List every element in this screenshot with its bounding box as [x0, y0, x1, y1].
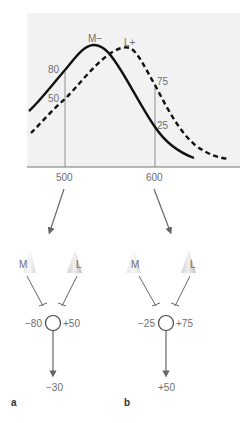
panel-label: b [124, 397, 130, 408]
cone-l-label: L [190, 259, 196, 270]
panel-label: a [11, 397, 17, 408]
output-value: −30 [46, 382, 63, 393]
spectral-chart: M− L+ 80 50 75 25 500 600 [27, 13, 240, 183]
tick-600: 600 [146, 172, 163, 183]
input-l-value: +50 [63, 318, 80, 329]
l-curve-label: L+ [124, 37, 136, 48]
value-m-600: 25 [157, 120, 169, 131]
input-l-value: +75 [176, 318, 193, 329]
m-curve-label: M− [88, 33, 102, 44]
arrow-to-panel-a [50, 189, 64, 231]
opponent-diagram: M− L+ 80 50 75 25 500 600 M L −80 +50 −3… [0, 0, 245, 423]
input-m-value: −25 [138, 318, 155, 329]
opponent-cell-icon [159, 316, 174, 331]
l-connection [175, 276, 190, 306]
l-connection [62, 276, 77, 306]
value-m-500: 80 [48, 64, 60, 75]
input-m-value: −80 [25, 318, 42, 329]
output-value: +50 [158, 382, 175, 393]
arrow-to-panel-b [154, 189, 170, 231]
cone-l-label: L [76, 259, 82, 270]
panel-b: M L −25 +75 +50 b [124, 250, 196, 408]
m-connection [139, 276, 156, 306]
value-l-500: 50 [48, 93, 60, 104]
value-l-600: 75 [157, 76, 169, 87]
panel-a: M L −80 +50 −30 a [11, 250, 82, 408]
cone-m-label: M [131, 259, 139, 270]
opponent-cell-icon [46, 316, 61, 331]
cone-m-label: M [19, 259, 27, 270]
m-connection [27, 276, 43, 306]
tick-500: 500 [56, 172, 73, 183]
